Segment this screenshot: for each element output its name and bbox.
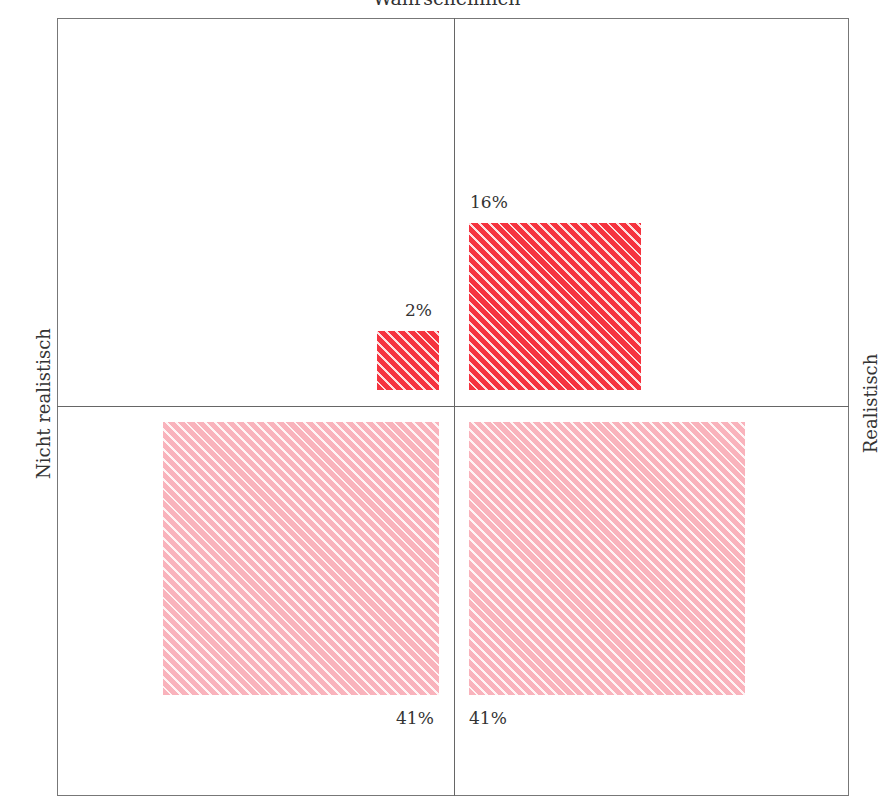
quadrant-top-right-value: 16%	[470, 192, 508, 212]
left-axis-label: Nicht realistisch	[33, 319, 54, 489]
quadrant-top-left-value: 2%	[405, 300, 432, 320]
right-axis-label: Realistisch	[860, 344, 881, 464]
vertical-axis-line	[454, 18, 455, 796]
horizontal-axis-line	[57, 406, 849, 407]
quadrant-bottom-left-value: 41%	[396, 708, 434, 728]
top-axis-label: Wahrscheinlich	[0, 0, 893, 9]
quadrant-bottom-right-value: 41%	[469, 708, 507, 728]
quadrant-bottom-left-area	[163, 422, 439, 695]
quadrant-top-left-area	[377, 331, 439, 390]
quadrant-top-right-area	[469, 223, 641, 390]
quadrant-bottom-right-area	[469, 422, 745, 695]
